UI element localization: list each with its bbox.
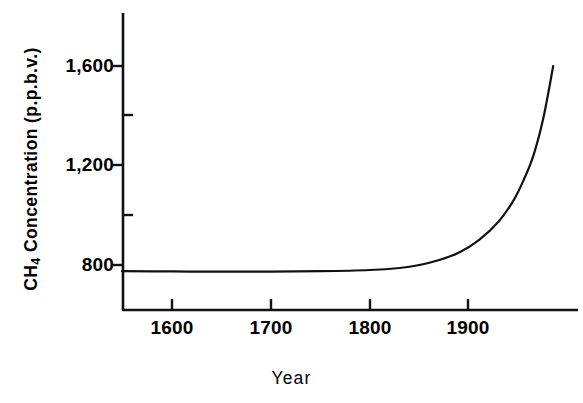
x-tick-label-1700: 1700 <box>231 318 311 338</box>
x-tick-label-1800: 1800 <box>330 318 410 338</box>
x-tick-label-1600: 1600 <box>132 318 212 338</box>
y-axis-title: CH4 Concentration (p.p.b.v.) <box>16 14 46 324</box>
y-axis-title-subscript: 4 <box>29 257 43 264</box>
x-tick-label-group: 1600 1700 1800 1900 <box>0 0 583 403</box>
x-axis-title: Year <box>0 368 583 389</box>
x-tick-label-1900: 1900 <box>428 318 508 338</box>
cropped-caption-strip <box>0 394 583 403</box>
y-axis-title-suffix: Concentration (p.p.b.v.) <box>21 47 41 257</box>
chart-figure: 1,600 1,200 800 1600 1700 1800 1900 CH4 … <box>0 0 583 403</box>
y-axis-title-prefix: CH <box>21 265 41 291</box>
